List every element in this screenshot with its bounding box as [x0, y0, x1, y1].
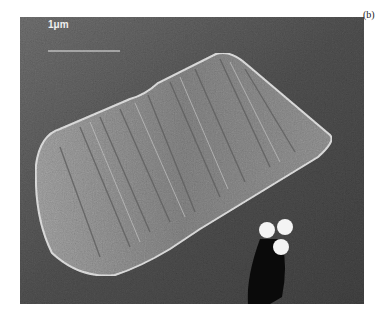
micrograph-image	[20, 17, 364, 304]
micrograph-graphic	[20, 17, 364, 304]
latex-sphere	[259, 222, 275, 238]
panel-label: (b)	[363, 9, 375, 20]
latex-sphere	[273, 239, 289, 255]
latex-sphere	[277, 219, 293, 235]
scale-bar-label: 1μm	[48, 19, 69, 30]
